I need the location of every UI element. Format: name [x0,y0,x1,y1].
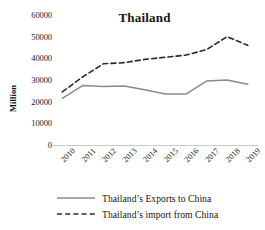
series-line-imports [62,37,247,92]
legend-label-exports: Thailand’s Exports to China [102,193,211,204]
x-axis-line [52,145,258,146]
series-line-exports [62,80,247,98]
chart-legend: Thailand’s Exports to China Thailand’s i… [0,190,265,222]
y-axis-title: Million [8,98,18,112]
y-axis-tick-label: 50000 [31,33,52,42]
legend-label-imports: Thailand’s import from China [102,209,218,220]
legend-item-exports: Thailand’s Exports to China [0,190,265,206]
legend-item-imports: Thailand’s import from China [0,206,265,222]
legend-swatch-solid-line [56,193,96,203]
y-axis-tick-label: 10000 [31,119,52,128]
legend-swatch-dashed-line [56,209,96,219]
line-chart: Thailand Million 60000500004000030000200… [0,0,265,230]
y-axis-tick-label: 60000 [31,11,52,20]
series-canvas [52,15,258,145]
y-axis-tick-label: 40000 [31,54,52,63]
x-axis-tick-labels: 2010201120122013201420152016201720182019 [52,147,258,189]
plot-area [52,15,258,145]
y-axis-tick-label: 30000 [31,76,52,85]
y-axis-tick-label: 20000 [31,98,52,107]
